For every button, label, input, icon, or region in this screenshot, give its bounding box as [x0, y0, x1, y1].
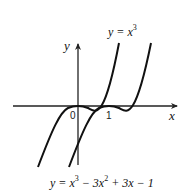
origin-label: 0	[70, 110, 76, 121]
shifted-cubic-equation-label: y = x3 − 3x2 + 3x − 1	[49, 174, 154, 190]
cubic-equation-label: y = x3	[107, 23, 137, 39]
curve-shifted-cubic	[69, 43, 151, 167]
shifted-label-part1: y = x	[49, 176, 75, 190]
cubic-graphs-diagram: y x 0 1 y = x3 y = x3 − 3x2 + 3x − 1	[0, 0, 188, 196]
y-axis-label: y	[62, 38, 70, 53]
cubic-label-exponent: 3	[133, 23, 137, 32]
tick-label-1: 1	[106, 110, 112, 121]
shifted-label-part3: + 3x − 1	[108, 176, 154, 190]
cubic-label-base: y = x	[107, 25, 133, 39]
x-axis-label: x	[168, 108, 175, 123]
shifted-label-part2: − 3x	[79, 176, 105, 190]
